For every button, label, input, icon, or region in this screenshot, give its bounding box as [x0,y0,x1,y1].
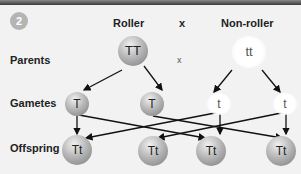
offspring-ball-3: Tt [196,136,226,166]
gamete-ball-3: t [207,93,231,115]
offspring-ball-1: Tt [62,135,92,165]
offspring-ball-2: Tt [138,136,168,166]
offspring-ball-4: Tt [266,136,296,166]
parent-roller-ball: TT [118,36,148,66]
parent-non-roller-ball: tt [232,36,266,68]
gamete-ball-1: T [65,92,89,116]
gamete-ball-2: T [140,92,164,116]
gamete-ball-4: t [273,93,297,115]
